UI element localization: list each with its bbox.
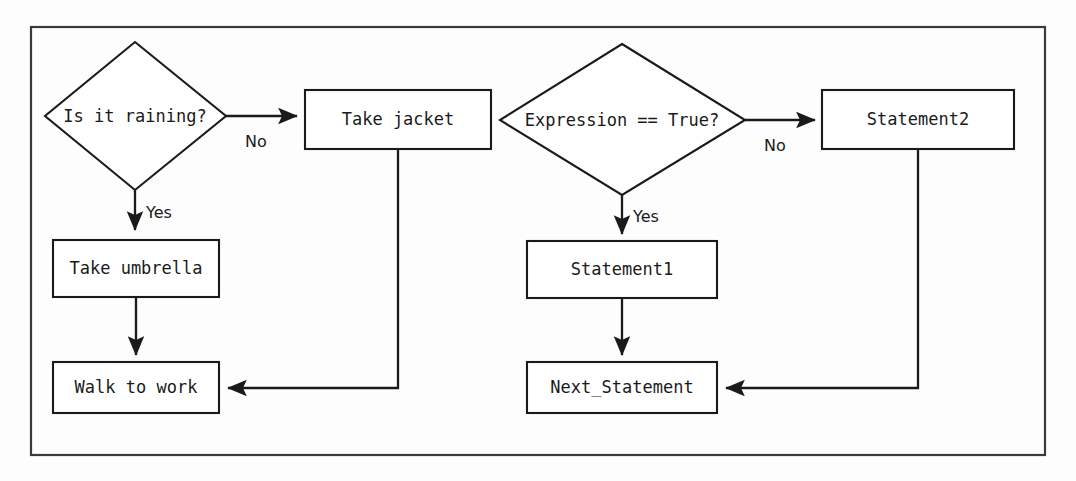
diagram-canvas: Is it raining? No Take jacket Yes Take u… <box>0 0 1076 481</box>
edge-label-yes-right: Yes <box>632 207 659 226</box>
flowchart-svg: Is it raining? No Take jacket Yes Take u… <box>0 0 1076 481</box>
node-take-umbrella-label: Take umbrella <box>69 258 202 278</box>
decision-expression-true-label: Expression == True? <box>525 110 719 130</box>
node-statement2-label: Statement2 <box>867 109 969 129</box>
node-next-statement-label: Next_Statement <box>550 377 693 397</box>
edge-label-yes-left: Yes <box>145 203 172 222</box>
edge-label-no-right: No <box>764 136 786 155</box>
edge-jacket-to-walk <box>228 149 398 388</box>
decision-is-it-raining-label: Is it raining? <box>63 106 206 126</box>
edge-label-no-left: No <box>245 132 267 151</box>
node-walk-to-work-label: Walk to work <box>75 377 198 397</box>
node-statement1-label: Statement1 <box>571 259 673 279</box>
node-take-jacket-label: Take jacket <box>342 109 455 129</box>
edge-statement2-to-next <box>726 149 918 388</box>
